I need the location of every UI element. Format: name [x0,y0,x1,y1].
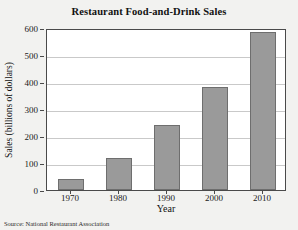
x-tick-mark [262,191,263,194]
bar-1990 [154,125,181,190]
chart-title: Restaurant Food-and-Drink Sales [0,6,298,17]
y-tick-label: 300 [25,105,39,115]
bar-1980 [106,158,133,190]
y-tick-mark [40,56,44,57]
x-tick-label-2010: 2010 [253,193,271,203]
y-tick-label: 0 [34,186,39,196]
y-tick-label: 600 [25,24,39,34]
bar-1970 [58,179,85,190]
chart-figure: Restaurant Food-and-Drink Sales Sales (b… [0,0,298,230]
y-tick-label: 200 [25,132,39,142]
source-note: Source: National Restaurant Association [4,220,109,227]
y-tick-label: 500 [25,51,39,61]
x-tick-label-2000: 2000 [205,193,223,203]
x-axis-title: Year [46,203,286,214]
x-tick-label-1990: 1990 [157,193,175,203]
y-tick-mark [40,29,44,30]
y-tick-mark [40,110,44,111]
x-tick-mark [118,191,119,194]
y-axis-ticks: 0100200300400500600 [0,29,44,191]
bar-2010 [250,32,277,190]
x-tick-label-1970: 1970 [61,193,79,203]
x-tick-mark [214,191,215,194]
x-tick-mark [70,191,71,194]
plot-area [46,29,286,191]
y-tick-mark [40,164,44,165]
y-tick-mark [40,83,44,84]
bar-series [47,30,285,190]
y-tick-mark [40,191,44,192]
y-tick-label: 100 [25,159,39,169]
x-tick-label-1980: 1980 [109,193,127,203]
y-tick-mark [40,137,44,138]
x-tick-mark [166,191,167,194]
bar-2000 [202,87,229,190]
y-tick-label: 400 [25,78,39,88]
